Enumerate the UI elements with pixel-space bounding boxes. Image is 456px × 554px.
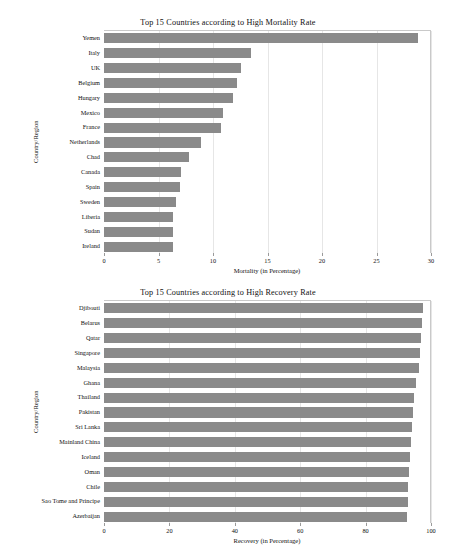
bar	[104, 197, 176, 207]
bar	[104, 512, 407, 522]
bar-row: Yemen	[104, 33, 430, 43]
y-axis-tick-label: Belgium	[78, 80, 104, 86]
x-axis-tick-label: 60	[297, 528, 303, 534]
bar	[104, 497, 408, 507]
bar-row: UK	[104, 63, 430, 73]
y-axis-tick-label: Sudan	[84, 228, 104, 234]
x-axis-tick-label: 10	[210, 258, 216, 264]
bar	[104, 227, 173, 237]
x-axis-tick-label: 100	[426, 528, 435, 534]
y-axis-tick-label: Sweden	[80, 199, 104, 205]
bar	[104, 212, 173, 222]
x-axis-tick-mark	[377, 253, 378, 256]
bar	[104, 137, 201, 147]
bar-row: Qatar	[104, 333, 430, 343]
bar-row: Sweden	[104, 197, 430, 207]
bar	[104, 78, 237, 88]
bar-row: Sao Tome and Principe	[104, 497, 430, 507]
bar	[104, 167, 181, 177]
x-axis-tick-label: 80	[362, 528, 368, 534]
y-axis-tick-label: Canada	[81, 169, 104, 175]
bar-row: Sri Lanka	[104, 422, 430, 432]
bar-row: Italy	[104, 48, 430, 58]
x-axis-tick-label: 15	[264, 258, 270, 264]
x-axis-tick-mark	[235, 523, 236, 526]
y-axis-tick-label: Netherlands	[70, 139, 104, 145]
y-axis-tick-label: France	[83, 124, 104, 130]
recovery-plot-area: DjiboutiBelarusQatarSingaporeMalaysiaGha…	[104, 300, 431, 523]
bar-row: Canada	[104, 167, 430, 177]
bar	[104, 348, 420, 358]
bar-row: Oman	[104, 467, 430, 477]
bar-row: Spain	[104, 182, 430, 192]
y-axis-tick-label: Italy	[88, 50, 104, 56]
recovery-y-axis-title: Country/Region	[32, 390, 39, 433]
mortality-chart-title: Top 15 Countries according to High Morta…	[0, 18, 456, 27]
bar-row: France	[104, 123, 430, 133]
y-axis-tick-label: Sao Tome and Principe	[42, 498, 104, 504]
bar-row: Chad	[104, 152, 430, 162]
bar-row: Djibouti	[104, 303, 430, 313]
bar	[104, 152, 189, 162]
y-axis-tick-label: Ireland	[82, 243, 104, 249]
bar	[104, 467, 409, 477]
bar	[104, 393, 414, 403]
bar-row: Pakistan	[104, 407, 430, 417]
bar	[104, 33, 418, 43]
bar	[104, 303, 423, 313]
bar	[104, 242, 173, 252]
x-axis-tick-mark	[322, 253, 323, 256]
recovery-chart-figure: Top 15 Countries according to High Recov…	[0, 282, 456, 554]
bar	[104, 378, 416, 388]
bar	[104, 63, 241, 73]
bar	[104, 182, 180, 192]
bar	[104, 422, 412, 432]
y-axis-tick-label: Chile	[86, 484, 104, 490]
y-axis-tick-label: Iceland	[81, 454, 104, 460]
y-axis-tick-label: Azerbaijan	[72, 513, 104, 519]
mortality-y-axis-title: Country/Region	[32, 120, 39, 163]
x-axis-tick-label: 40	[232, 528, 238, 534]
bar	[104, 363, 419, 373]
bar-row: Iceland	[104, 452, 430, 462]
bar-row: Chile	[104, 482, 430, 492]
y-axis-tick-label: Belarus	[81, 320, 104, 326]
y-axis-tick-label: Oman	[85, 469, 104, 475]
y-axis-tick-label: UK	[91, 65, 104, 71]
y-axis-tick-label: Thailand	[78, 394, 104, 400]
bar	[104, 437, 411, 447]
bar	[104, 123, 221, 133]
x-axis-tick-label: 20	[166, 528, 172, 534]
y-axis-tick-label: Chad	[87, 154, 104, 160]
bar-row: Netherlands	[104, 137, 430, 147]
x-axis-tick-mark	[104, 253, 105, 256]
x-axis-tick-label: 20	[319, 258, 325, 264]
bar	[104, 108, 223, 118]
bar	[104, 407, 413, 417]
bar-row: Malaysia	[104, 363, 430, 373]
bar	[104, 318, 422, 328]
bar-row: Sudan	[104, 227, 430, 237]
x-axis-tick-label: 0	[102, 258, 105, 264]
y-axis-tick-label: Malaysia	[77, 365, 104, 371]
mortality-x-axis-title: Mortality (in Percentage)	[104, 267, 430, 274]
bar-row: Azerbaijan	[104, 512, 430, 522]
y-axis-tick-label: Ghana	[84, 380, 104, 386]
x-axis-tick-mark	[213, 253, 214, 256]
x-axis-tick-mark	[159, 253, 160, 256]
recovery-chart-title: Top 15 Countries according to High Recov…	[0, 288, 456, 297]
x-axis-tick-label: 0	[102, 528, 105, 534]
y-axis-tick-label: Pakistan	[79, 409, 104, 415]
bar	[104, 48, 251, 58]
y-axis-tick-label: Qatar	[86, 335, 104, 341]
x-axis-tick-mark	[366, 523, 367, 526]
bar-row: Thailand	[104, 393, 430, 403]
bar	[104, 482, 408, 492]
bar	[104, 452, 410, 462]
y-axis-tick-label: Hungary	[78, 95, 104, 101]
bar-row: Hungary	[104, 93, 430, 103]
y-axis-tick-label: Singapore	[74, 350, 104, 356]
bar	[104, 93, 233, 103]
bar-row: Ghana	[104, 378, 430, 388]
bar-row: Mexico	[104, 108, 430, 118]
